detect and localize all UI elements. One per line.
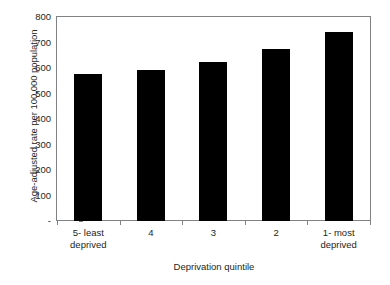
y-tick-label: 400 [27,114,51,124]
x-axis-tick-marks [57,221,371,226]
bar[interactable] [262,49,290,221]
bar[interactable] [74,74,102,221]
x-tick-mark [370,221,371,225]
y-axis-tick-labels: -100200300400500600700800 [27,11,51,223]
y-tick-label: 500 [27,89,51,99]
y-tick-label: 600 [27,63,51,73]
bars-layer [57,17,370,221]
y-tick-label: 100 [27,191,51,201]
x-axis-tick-labels: 5- leastdeprived4321- mostdeprived [57,227,371,257]
bar-chart-figure: Age-adjusted rate per 100,000 population… [0,0,390,285]
y-tick-label: 800 [27,12,51,22]
x-tick-mark [57,221,58,225]
x-tick-label: 3 [182,227,245,239]
x-tick-mark [120,221,121,225]
x-tick-mark [182,221,183,225]
bar-slot [307,17,370,221]
y-tick-label: 300 [27,140,51,150]
bar[interactable] [199,62,227,221]
bar-slot [57,17,120,221]
bar[interactable] [325,32,353,221]
bar-slot [245,17,308,221]
x-tick-label: 4 [120,227,183,239]
x-tick-label: 2 [245,227,308,239]
bar-slot [120,17,183,221]
x-axis-title: Deprivation quintile [57,261,371,272]
x-tick-mark [307,221,308,225]
y-tick-label: - [27,216,51,226]
bar[interactable] [137,70,165,221]
x-tick-mark [245,221,246,225]
bar-slot [182,17,245,221]
x-tick-label: 5- leastdeprived [57,227,120,250]
y-tick-label: 700 [27,38,51,48]
x-tick-label: 1- mostdeprived [307,227,370,250]
y-tick-label: 200 [27,165,51,175]
